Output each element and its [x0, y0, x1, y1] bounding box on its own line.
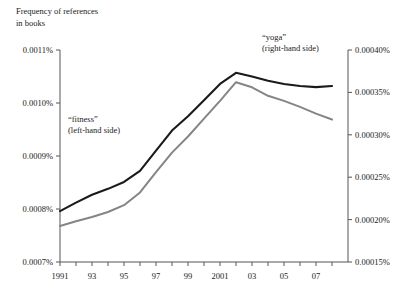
left-axis-tick-label: 0.0007%	[23, 257, 53, 267]
right-axis-tick-label: 0.00040%	[355, 45, 390, 55]
x-axis-tick-label: 99	[184, 271, 193, 281]
chart-title-line1: Frequency of references	[16, 6, 98, 16]
left-axis-tick-label: 0.0010%	[23, 98, 53, 108]
x-axis-tick-label: 2001	[212, 271, 229, 281]
series-line-yoga	[60, 82, 332, 226]
fitness-annotation-line2: (left-hand side)	[68, 125, 120, 135]
line-chart: Frequency of references in books 0.0007%…	[0, 0, 404, 294]
chart-title-line2: in books	[16, 18, 45, 28]
right-axis-tick-label: 0.00015%	[355, 257, 390, 267]
axes-layer	[56, 50, 352, 266]
x-axis-tick-label: 03	[248, 271, 257, 281]
axis-frame	[60, 50, 348, 262]
chart-container: Frequency of references in books 0.0007%…	[0, 0, 404, 294]
series-layer	[60, 73, 332, 226]
x-axis-tick-label: 1991	[52, 271, 69, 281]
tick-labels-layer: 0.0007%0.0008%0.0009%0.0010%0.0011%0.000…	[23, 45, 390, 281]
x-axis-tick-label: 05	[280, 271, 289, 281]
left-axis-tick-label: 0.0008%	[23, 204, 53, 214]
right-axis-tick-label: 0.00020%	[355, 215, 390, 225]
right-axis-tick-label: 0.00030%	[355, 130, 390, 140]
yoga-annotation-line1: “yoga”	[262, 32, 286, 42]
fitness-annotation-line1: “fitness”	[68, 114, 98, 124]
series-line-fitness	[60, 73, 332, 211]
right-axis-tick-label: 0.00035%	[355, 87, 390, 97]
left-axis-tick-label: 0.0011%	[23, 45, 53, 55]
right-axis-tick-label: 0.00025%	[355, 172, 390, 182]
left-axis-tick-label: 0.0009%	[23, 151, 53, 161]
x-axis-tick-label: 97	[152, 271, 161, 281]
x-axis-tick-label: 95	[120, 271, 129, 281]
x-axis-tick-label: 93	[88, 271, 97, 281]
yoga-annotation-line2: (right-hand side)	[262, 43, 319, 53]
x-axis-tick-label: 07	[312, 271, 321, 281]
